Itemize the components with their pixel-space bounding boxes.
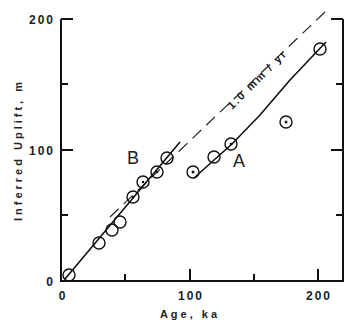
axes (60, 19, 344, 281)
x-axis-title: Age, ka (160, 308, 220, 320)
x-tick-200: 200 (306, 289, 332, 303)
uplift-chart: 200 100 0 0 100 200 Inferred Uplift, m A… (0, 0, 357, 325)
y-tick-100: 100 (29, 144, 55, 158)
x-tick-0: 0 (59, 289, 68, 303)
y-tick-200: 200 (29, 13, 55, 27)
data-point (114, 216, 126, 228)
y-axis-title: Inferred Uplift, m (12, 79, 24, 221)
series-b-label: B (127, 148, 139, 168)
series-a-label: A (233, 151, 245, 171)
rate-label: 1.0 mm / yr (225, 47, 290, 112)
y-tick-0: 0 (46, 275, 55, 289)
x-tick-100: 100 (178, 289, 204, 303)
fit-line-a (194, 42, 326, 178)
